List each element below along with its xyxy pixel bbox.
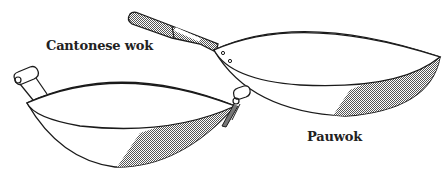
pau-wok-label: Pauwok: [307, 129, 362, 144]
cantonese-wok-label: Cantonese wok: [46, 38, 153, 53]
wok-illustration: [0, 0, 448, 174]
cantonese-wok-left-handle: [14, 67, 47, 101]
cantonese-wok: [14, 67, 250, 171]
